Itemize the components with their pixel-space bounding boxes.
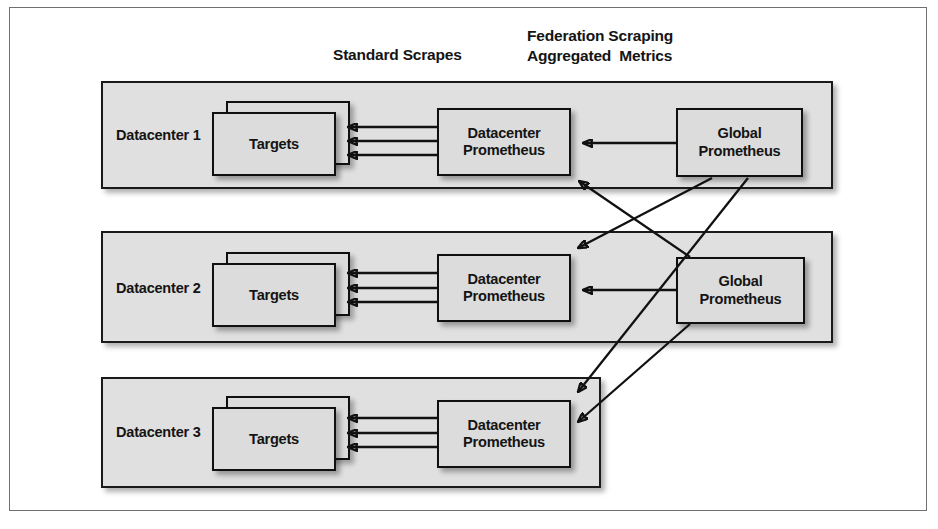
- datacenter-label-1: Datacenter 1: [116, 127, 201, 143]
- datacenter-prometheus-3[interactable]: Datacenter Prometheus: [437, 400, 571, 468]
- caption-standard-scrapes: Standard Scrapes: [333, 45, 462, 65]
- targets-stack-3: Targets: [212, 396, 354, 475]
- datacenter-prometheus-1[interactable]: Datacenter Prometheus: [437, 108, 571, 176]
- caption-federation-scraping: Federation Scraping Aggregated Metrics: [527, 26, 673, 66]
- targets-stack-2: Targets: [212, 252, 354, 331]
- targets-box-2[interactable]: Targets: [212, 263, 336, 327]
- targets-label-1: Targets: [249, 136, 299, 152]
- datacenter-prometheus-2[interactable]: Datacenter Prometheus: [437, 254, 571, 322]
- global-prometheus-2[interactable]: Global Prometheus: [676, 257, 805, 324]
- targets-box-3[interactable]: Targets: [212, 407, 336, 471]
- datacenter-label-2: Datacenter 2: [116, 280, 201, 296]
- targets-stack-1: Targets: [212, 101, 354, 180]
- global-prometheus-1[interactable]: Global Prometheus: [676, 108, 803, 177]
- targets-box-1[interactable]: Targets: [212, 112, 336, 176]
- targets-label-2: Targets: [249, 287, 299, 303]
- federation-diagram: Standard Scrapes Federation Scraping Agg…: [0, 0, 938, 529]
- datacenter-label-3: Datacenter 3: [116, 424, 201, 440]
- targets-label-3: Targets: [249, 431, 299, 447]
